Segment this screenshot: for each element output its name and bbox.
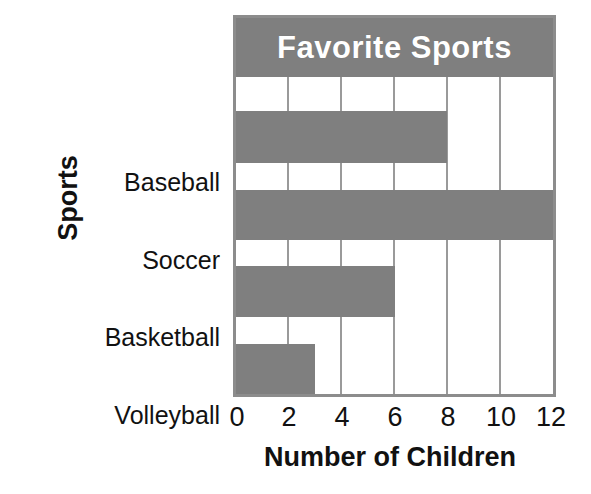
x-tick-label-10: 10 [486,401,516,433]
bar-volleyball [236,344,315,394]
bar-soccer [236,190,553,240]
x-tick-label-12: 12 [536,401,566,433]
bar-baseball [236,111,447,163]
plot-area: Favorite Sports [233,15,556,397]
x-tick-label-group: 0 2 4 6 8 10 12 [233,401,556,435]
x-tick-label-0: 0 [229,401,244,433]
x-tick-label-4: 4 [334,401,349,433]
x-tick-label-2: 2 [281,401,296,433]
y-tick-label-group: Baseball Soccer Basketball Volleyball [60,74,226,397]
y-tick-label-basketball: Basketball [105,324,220,350]
x-tick-label-6: 6 [387,401,402,433]
plot-inner: Favorite Sports [236,18,553,394]
bar-basketball [236,266,395,317]
y-tick-label-baseball: Baseball [124,169,220,195]
bar-chart: Sports Baseball Soccer Basketball Volley… [0,0,591,494]
y-tick-label-volleyball: Volleyball [114,402,220,428]
x-axis-title: Number of Children [190,437,590,477]
chart-title-band: Favorite Sports [236,18,553,77]
chart-title: Favorite Sports [277,30,512,66]
x-tick-label-8: 8 [440,401,455,433]
y-tick-label-soccer: Soccer [142,247,220,273]
